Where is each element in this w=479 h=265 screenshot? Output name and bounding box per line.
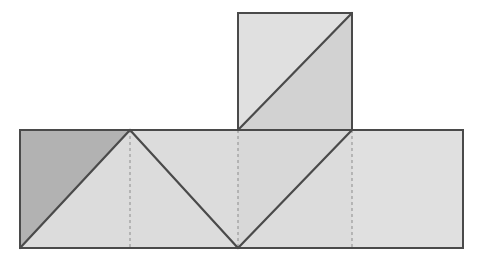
- net-diagram: [0, 0, 479, 265]
- face-right-cell-rectangle: [352, 130, 463, 248]
- figure-root: [0, 0, 479, 265]
